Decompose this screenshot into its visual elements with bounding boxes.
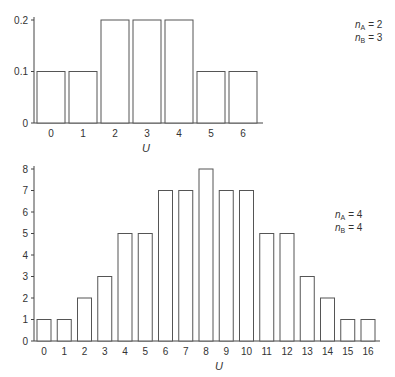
bar [341,320,355,342]
bar [37,320,51,342]
x-tick-label: 11 [262,346,273,357]
x-tick-label: 15 [342,346,354,357]
y-tick-label: 1 [22,314,28,325]
y-tick-label: 0 [22,336,28,347]
y-tick-label: 6 [22,207,28,218]
x-tick-label: 6 [240,128,246,139]
x-tick-label: 0 [48,128,54,139]
bar [78,298,92,341]
bar [37,72,65,124]
y-tick-label: 7 [22,185,28,196]
x-tick-label: 8 [203,346,209,357]
sample-size-annotation: nA= 4 [335,209,363,221]
bar [179,191,193,342]
y-tick-label: 4 [22,250,28,261]
bar [57,320,71,342]
x-tick-label: 1 [80,128,86,139]
x-tick-label: 3 [102,346,108,357]
y-tick-label: 3 [22,271,28,282]
y-tick-label: 0.2 [14,15,28,26]
bar [165,20,193,123]
x-axis-title: U [215,360,223,372]
bar [199,169,213,341]
y-tick-label: 0.1 [14,66,28,77]
x-tick-label: 2 [82,346,88,357]
y-tick-label: 8 [22,164,28,175]
bar [69,72,97,124]
bar [197,72,225,124]
bottom-bar-chart: 012345678012345678910111213141516UnA= 4n… [22,164,380,373]
charts-figure: 00.10.20123456UnA= 2nB= 3 01234567801234… [0,0,395,377]
x-tick-label: 14 [322,346,334,357]
bar [280,234,294,342]
top-bar-chart: 00.10.20123456UnA= 2nB= 3 [14,15,383,155]
bar [133,20,161,123]
x-tick-label: 6 [163,346,169,357]
y-tick-label: 5 [22,228,28,239]
x-tick-label: 5 [142,346,148,357]
bar [118,234,132,342]
x-tick-label: 9 [223,346,229,357]
y-tick-label: 0 [22,118,28,129]
x-tick-label: 13 [302,346,314,357]
x-tick-label: 16 [362,346,374,357]
sample-size-annotation: nB= 3 [355,32,383,44]
bar [240,191,254,342]
x-tick-label: 5 [208,128,214,139]
x-tick-label: 7 [183,346,189,357]
bar [98,277,112,342]
bar [229,72,257,124]
y-tick-label: 2 [22,293,28,304]
bar [138,234,152,342]
x-tick-label: 0 [41,346,47,357]
bar [300,277,314,342]
x-tick-label: 2 [112,128,118,139]
x-tick-label: 4 [122,346,128,357]
bar [321,298,335,341]
x-tick-label: 10 [241,346,253,357]
sample-size-annotation: nB= 4 [335,222,363,234]
bar [260,234,274,342]
x-tick-label: 1 [61,346,67,357]
bar [101,20,129,123]
sample-size-annotation: nA= 2 [355,19,383,31]
bar [219,191,233,342]
x-axis-title: U [142,142,150,154]
bar [159,191,173,342]
x-tick-label: 3 [144,128,150,139]
x-tick-label: 12 [281,346,293,357]
x-tick-label: 4 [176,128,182,139]
bar [361,320,375,342]
